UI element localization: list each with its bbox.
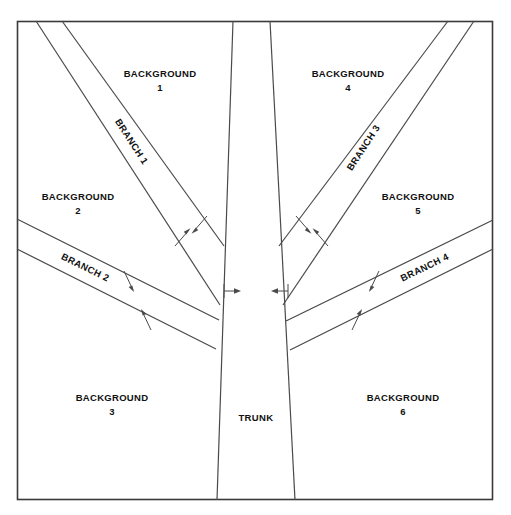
background-4-index: 4 [345, 82, 351, 93]
background-6-title: BACKGROUND [367, 392, 440, 403]
background-3-index: 3 [109, 406, 115, 417]
background-6-index: 6 [400, 406, 406, 417]
diagram-frame [18, 22, 493, 500]
background-2-index: 2 [75, 205, 81, 216]
background-1-title: BACKGROUND [124, 68, 197, 79]
trunk-label: TRUNK [238, 412, 273, 423]
background-5-index: 5 [415, 205, 421, 216]
tree-diagram-canvas: BACKGROUND 1 BACKGROUND 2 BACKGROUND 3 B… [0, 0, 511, 515]
background-1-index: 1 [157, 82, 163, 93]
background-2-title: BACKGROUND [42, 191, 115, 202]
background-5-title: BACKGROUND [382, 191, 455, 202]
background-4-title: BACKGROUND [312, 68, 385, 79]
tree-diagram-figure: BACKGROUND 1 BACKGROUND 2 BACKGROUND 3 B… [0, 0, 511, 515]
background-3-title: BACKGROUND [76, 392, 149, 403]
